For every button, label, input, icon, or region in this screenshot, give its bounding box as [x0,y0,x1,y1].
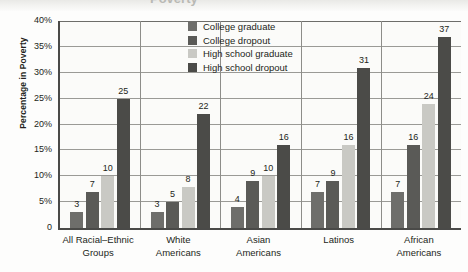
group-separator [301,21,302,228]
legend-swatch [188,49,197,58]
bar: 16 [277,145,290,228]
bar-fill [182,187,195,228]
bar-fill [407,145,420,228]
bar-value-label: 7 [395,179,400,189]
bar: 7 [391,192,404,228]
y-tick-20%: 20% [8,119,52,129]
x-label-line: Latinos [299,234,379,247]
poverty-bar-chart: Poverty Percentage in Poverty 05%10%15%2… [0,0,468,272]
bar: 31 [357,68,370,228]
bar: 3 [151,212,164,228]
bar: 37 [438,37,451,228]
bar: 10 [101,176,114,228]
bar: 16 [407,145,420,228]
bar: 7 [311,192,324,228]
bar-fill [391,192,404,228]
bar-fill [151,212,164,228]
y-tick-5%: 5% [8,196,52,206]
x-label-line: African [379,234,459,247]
bar-fill [117,99,130,228]
legend-item: College graduate [188,20,293,34]
y-tick-15%: 15% [8,144,52,154]
y-tick-10%: 10% [8,170,52,180]
x-label-1: WhiteAmericans [138,234,218,259]
legend-item: College dropout [188,34,293,48]
bar-fill [70,212,83,228]
bar-value-label: 9 [330,168,335,178]
bar-value-label: 7 [315,179,320,189]
bar-value-label: 7 [90,179,95,189]
bar-value-label: 4 [235,194,240,204]
x-label-line: All Racial–Ethnic [58,234,138,247]
x-label-line: White [138,234,218,247]
bar: 5 [166,202,179,228]
chart-title-strip: Poverty [0,0,468,11]
bar-fill [86,192,99,228]
bar-fill [166,202,179,228]
y-tick-0: 0 [8,222,52,232]
bar-value-label: 22 [199,101,209,111]
legend-swatch [188,63,197,72]
y-tick-40%: 40% [8,15,52,25]
legend-item: High school dropout [188,61,293,75]
y-axis-title: Percentage in Poverty [18,8,28,158]
chart-legend: College graduateCollege dropoutHigh scho… [188,20,293,74]
bar-value-label: 31 [359,55,369,65]
bar-fill [326,181,339,228]
bar-value-label: 16 [343,132,353,142]
x-label-line: Americans [218,247,298,260]
bar-fill [101,176,114,228]
bar: 10 [262,176,275,228]
legend-item: High school graduate [188,47,293,61]
group-separator [140,21,141,228]
group-separator [381,21,382,228]
x-label-4: AfricanAmericans [379,234,459,259]
bar-value-label: 16 [408,132,418,142]
bar-value-label: 8 [186,174,191,184]
bar-value-label: 10 [263,163,273,173]
y-tick-30%: 30% [8,67,52,77]
y-tick-35%: 35% [8,41,52,51]
bar-value-label: 3 [155,199,160,209]
bar-value-label: 24 [424,91,434,101]
bar-value-label: 16 [279,132,289,142]
bar: 8 [182,187,195,228]
bar-fill [342,145,355,228]
x-label-line: Americans [138,247,218,260]
bar-fill [246,181,259,228]
x-label-3: Latinos [299,234,379,247]
bar-value-label: 37 [439,24,449,34]
x-axis-labels: All Racial–EthnicGroupsWhiteAmericansAsi… [58,234,459,272]
bar-value-label: 3 [74,199,79,209]
legend-label: College graduate [203,21,275,32]
bar-fill [277,145,290,228]
chart-title-partial: Poverty [150,0,198,6]
bar: 16 [342,145,355,228]
x-label-2: AsianAmericans [218,234,298,259]
bar-fill [231,207,244,228]
x-label-line: Asian [218,234,298,247]
bar-value-label: 5 [170,189,175,199]
y-tick-25%: 25% [8,93,52,103]
legend-swatch [188,22,197,31]
bar: 4 [231,207,244,228]
bar: 22 [197,114,210,228]
legend-swatch [188,36,197,45]
bar-fill [262,176,275,228]
x-label-0: All Racial–EthnicGroups [58,234,138,259]
bar-fill [422,104,435,228]
legend-label: High school dropout [203,62,288,73]
legend-label: High school graduate [203,48,293,59]
bar-fill [438,37,451,228]
bar: 25 [117,99,130,228]
bar-fill [357,68,370,228]
bar: 7 [86,192,99,228]
bar: 9 [326,181,339,228]
bar-value-label: 9 [250,168,255,178]
bar-fill [197,114,210,228]
x-label-line: Americans [379,247,459,260]
bar-value-label: 10 [103,163,113,173]
bar: 3 [70,212,83,228]
x-label-line: Groups [58,247,138,260]
bar: 24 [422,104,435,228]
